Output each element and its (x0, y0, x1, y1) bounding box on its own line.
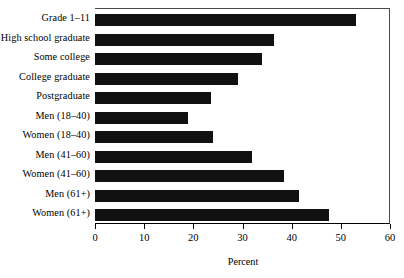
x-tick (292, 224, 293, 229)
x-axis-tick-marks (95, 224, 391, 229)
bar (95, 53, 262, 65)
y-axis-label: Women (61+) (0, 207, 90, 219)
bar (95, 131, 213, 143)
x-tick (341, 224, 342, 229)
x-tick-label: 30 (223, 231, 263, 244)
y-axis-label: Grade 1–11 (0, 12, 90, 24)
x-tick-label: 0 (75, 231, 115, 244)
bar (95, 190, 299, 202)
horizontal-bar-chart: Grade 1–11High school graduateSome colle… (0, 0, 404, 278)
bar (95, 151, 252, 163)
bar (95, 170, 284, 182)
y-axis-category-labels: Grade 1–11High school graduateSome colle… (0, 8, 90, 223)
bar (95, 34, 274, 46)
y-axis-label: Postgraduate (0, 90, 90, 102)
y-axis-label: College graduate (0, 71, 90, 83)
x-tick-label: 10 (124, 231, 164, 244)
bar (95, 92, 211, 104)
bar (95, 73, 238, 85)
y-axis-label: Men (61+) (0, 188, 90, 200)
bar (95, 112, 188, 124)
x-axis-tick-labels: 0102030405060 (0, 231, 404, 247)
y-axis-label: Men (41–60) (0, 149, 90, 161)
bar (95, 14, 356, 26)
x-tick-label: 50 (321, 231, 361, 244)
x-tick-label: 40 (272, 231, 312, 244)
x-tick-label: 20 (173, 231, 213, 244)
plot-area (95, 8, 390, 224)
x-tick (193, 224, 194, 229)
x-tick-label: 60 (370, 231, 404, 244)
y-axis-label: Women (18–40) (0, 129, 90, 141)
y-axis-label: Women (41–60) (0, 168, 90, 180)
x-tick (144, 224, 145, 229)
x-tick (243, 224, 244, 229)
x-tick (390, 224, 391, 229)
y-axis-label: High school graduate (0, 32, 90, 44)
y-axis-label: Men (18–40) (0, 110, 90, 122)
bar (95, 209, 329, 221)
x-tick (95, 224, 96, 229)
y-axis-label: Some college (0, 51, 90, 63)
x-axis-title: Percent (95, 255, 391, 268)
